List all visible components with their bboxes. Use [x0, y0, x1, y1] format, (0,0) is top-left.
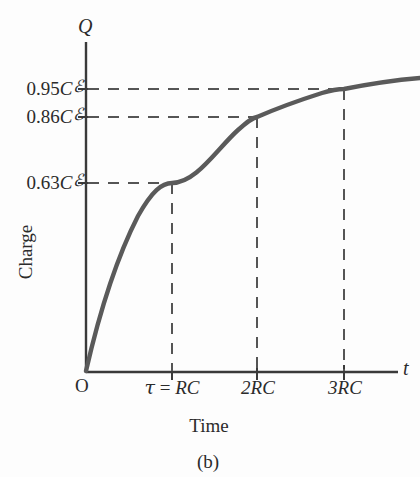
plot-canvas: [0, 0, 420, 477]
y-tick-label-086: 0.86Cℰ: [27, 107, 82, 126]
x-tick-label-2rc: 2RC: [241, 378, 275, 397]
x-axis-symbol: t: [403, 358, 409, 378]
y-axis-symbol: Q: [78, 16, 92, 36]
capacitor-charging-figure: 0.95Cℰ 0.86Cℰ 0.63Cℰ Q t O τ = RC 2RC 3R…: [0, 0, 420, 477]
charging-curve: [86, 78, 420, 371]
y-tick-label-095: 0.95Cℰ: [27, 79, 82, 98]
figure-caption: (b): [197, 452, 219, 471]
y-axis-title: Charge: [16, 225, 35, 280]
x-axis-title: Time: [189, 416, 228, 435]
x-tick-label-3rc: 3RC: [328, 378, 362, 397]
origin-label: O: [75, 376, 89, 395]
x-tick-label-rc: τ = RC: [144, 378, 199, 397]
y-tick-label-063: 0.63Cℰ: [27, 173, 82, 192]
